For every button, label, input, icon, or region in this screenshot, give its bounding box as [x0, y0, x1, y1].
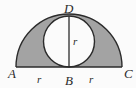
geometry-figure: A B C D r r r	[0, 0, 136, 88]
label-point-c: C	[124, 66, 133, 81]
label-radius-left: r	[37, 73, 42, 85]
label-radius-inner: r	[73, 35, 78, 47]
figure-svg: A B C D r r r	[0, 0, 136, 88]
label-radius-right: r	[89, 73, 94, 85]
label-point-d: D	[63, 1, 74, 16]
label-point-b: B	[65, 73, 73, 88]
label-point-a: A	[7, 66, 16, 81]
